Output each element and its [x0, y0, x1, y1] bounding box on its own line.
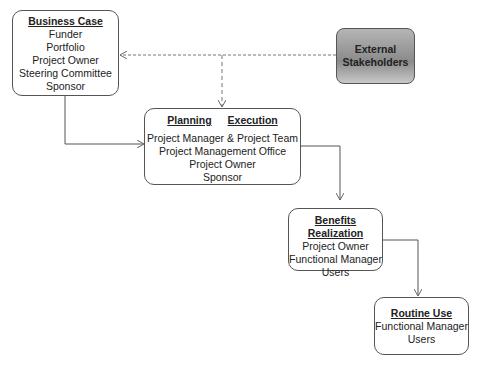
item: Project Management Office [145, 145, 300, 158]
item: Users [375, 333, 468, 346]
item: Users [289, 266, 382, 279]
item: Functional Manager [289, 253, 382, 266]
benefits-title: Benefits Realization [289, 214, 382, 240]
external-stakeholders-box: ExternalStakeholders [336, 28, 415, 84]
ext-line2: Stakeholders [343, 56, 409, 69]
item: Project Owner [13, 54, 118, 67]
business-case-title: Business Case [13, 15, 118, 28]
execution-title: Execution [228, 114, 278, 127]
arrow-planning-to-benefits [300, 146, 340, 200]
routine-use-box: Routine Use Functional Manager Users [374, 297, 469, 355]
item: Sponsor [13, 80, 118, 93]
planning-title: Planning [167, 114, 211, 127]
benefits-realization-box: Benefits Realization Project Owner Funct… [288, 208, 383, 271]
arrow-benefits-to-routine [382, 240, 418, 296]
item: Steering Committee [13, 67, 118, 80]
item: Project Owner [145, 158, 300, 171]
ext-line1: External [343, 43, 409, 56]
routine-title: Routine Use [375, 307, 468, 320]
item: Functional Manager [375, 320, 468, 333]
item: Sponsor [145, 171, 300, 184]
item: Project Owner [289, 240, 382, 253]
item: Funder [13, 28, 118, 41]
business-case-box: Business Case Funder Portfolio Project O… [12, 10, 119, 96]
item: Project Manager & Project Team [145, 132, 300, 145]
item: Portfolio [13, 41, 118, 54]
planning-execution-box: PlanningExecution Project Manager & Proj… [144, 108, 301, 185]
arrow-business-to-planning [65, 95, 144, 144]
